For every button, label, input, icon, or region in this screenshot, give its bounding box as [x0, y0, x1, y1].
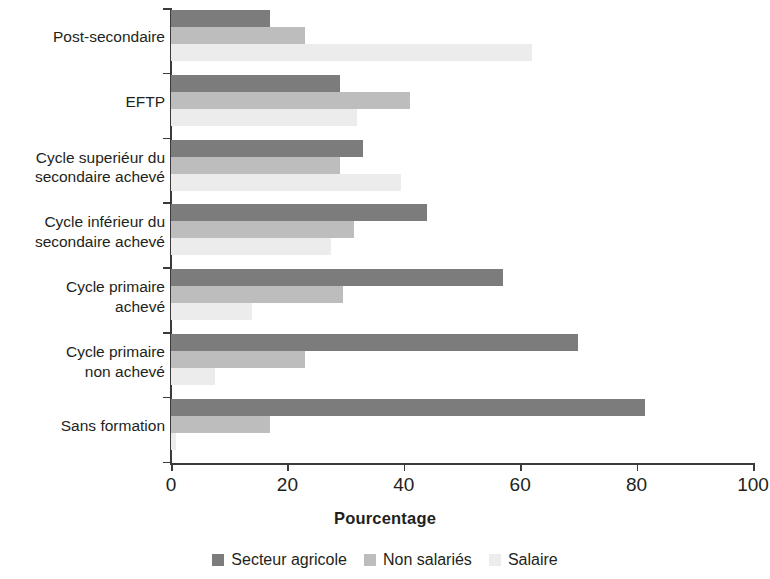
- x-tick-label-80: 80: [626, 474, 647, 496]
- bar-group: Cycle primaire achevé: [0, 269, 770, 334]
- y-axis-category-label: Sans formation: [0, 416, 165, 436]
- x-tick-label-100: 100: [737, 474, 769, 496]
- bar-3: [171, 238, 331, 255]
- bar-group: Post-secondaire: [0, 10, 770, 75]
- bar-2: [171, 157, 340, 174]
- bar-1: [171, 10, 270, 27]
- chart-legend: Secteur agricoleNon salariésSalaire: [0, 551, 770, 569]
- bar-2: [171, 27, 305, 44]
- x-tick-label-0: 0: [166, 474, 177, 496]
- x-axis-title: Pourcentage: [0, 509, 770, 528]
- bar-1: [171, 399, 645, 416]
- bar-2: [171, 351, 305, 368]
- x-tick-40: [404, 463, 406, 471]
- y-axis-category-label: EFTP: [0, 92, 165, 112]
- bar-2: [171, 221, 354, 238]
- legend-swatch-icon: [364, 554, 376, 566]
- bar-2: [171, 416, 270, 433]
- bar-1: [171, 334, 578, 351]
- bar-1: [171, 269, 503, 286]
- bar-3: [171, 368, 215, 385]
- bar-chart: 020406080100 Post-secondaireEFTPCycle su…: [0, 0, 770, 579]
- legend-item-1: Secteur agricole: [212, 551, 347, 569]
- x-tick-20: [287, 463, 289, 471]
- plot-area: 020406080100 Post-secondaireEFTPCycle su…: [0, 0, 770, 470]
- y-axis-category-label: Cycle inférieur du secondaire achevé: [0, 212, 165, 252]
- legend-label: Non salariés: [383, 551, 472, 569]
- legend-swatch-icon: [489, 554, 501, 566]
- x-tick-0: [171, 463, 173, 471]
- legend-label: Secteur agricole: [231, 551, 347, 569]
- bar-3: [171, 174, 401, 191]
- bar-1: [171, 140, 363, 157]
- bar-3: [171, 109, 357, 126]
- bar-group: Cycle superiéur du secondaire achevé: [0, 140, 770, 205]
- y-axis-category-label: Cycle primaire achevé: [0, 277, 165, 317]
- x-tick-100: [753, 463, 755, 471]
- y-axis-category-label: Cycle primaire non achevé: [0, 342, 165, 382]
- bar-2: [171, 92, 410, 109]
- legend-item-3: Salaire: [489, 551, 558, 569]
- legend-swatch-icon: [212, 554, 224, 566]
- x-tick-label-40: 40: [393, 474, 414, 496]
- x-tick-60: [520, 463, 522, 471]
- bar-3: [171, 303, 252, 320]
- bar-group: EFTP: [0, 75, 770, 140]
- bar-2: [171, 286, 343, 303]
- bar-group: Sans formation: [0, 399, 770, 464]
- x-tick-label-60: 60: [510, 474, 531, 496]
- bar-group: Cycle primaire non achevé: [0, 334, 770, 399]
- bar-3: [171, 433, 176, 450]
- y-axis-category-label: Cycle superiéur du secondaire achevé: [0, 148, 165, 188]
- x-tick-80: [637, 463, 639, 471]
- bar-group: Cycle inférieur du secondaire achevé: [0, 204, 770, 269]
- y-axis-category-label: Post-secondaire: [0, 27, 165, 47]
- x-tick-label-20: 20: [277, 474, 298, 496]
- bar-1: [171, 75, 340, 92]
- legend-label: Salaire: [508, 551, 558, 569]
- bar-3: [171, 44, 532, 61]
- bar-1: [171, 204, 427, 221]
- legend-item-2: Non salariés: [364, 551, 472, 569]
